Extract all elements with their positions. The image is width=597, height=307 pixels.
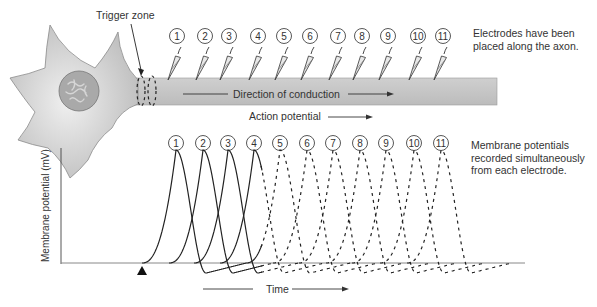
trace-dashed (299, 150, 403, 273)
electrode-3: 3 (220, 29, 237, 81)
trace-8: 8 (326, 136, 430, 274)
trace-number: 7 (330, 138, 336, 149)
electrode-6: 6 (301, 29, 318, 81)
trace-number: 4 (251, 138, 257, 149)
trace-number: 2 (200, 138, 206, 149)
trace-number: 9 (383, 138, 389, 149)
electrodes-note: Electrodes have been placed along the ax… (473, 27, 579, 52)
trace-solid (169, 150, 262, 273)
electrode-number: 8 (359, 31, 365, 42)
electrode-number: 11 (438, 31, 449, 42)
electrode-pipette (196, 56, 209, 80)
electrode-pipette (409, 56, 422, 80)
electrode-pipette (249, 56, 262, 80)
trace-5: 5 (246, 136, 350, 274)
electrode-pipette (379, 56, 392, 80)
electrode-number: 2 (202, 31, 208, 42)
electrode-pipette (329, 56, 342, 80)
trace-number: 11 (436, 138, 447, 149)
electrodes-note-line-1: Electrodes have been (473, 27, 579, 40)
trace-dashed (261, 166, 324, 273)
electrode-5: 5 (275, 29, 292, 81)
recordings-note: Membrane potentials recorded simultaneou… (471, 139, 585, 177)
electrode-pipette (434, 56, 447, 80)
action-potential-arrowhead (366, 115, 373, 120)
trigger-zone-arrow (131, 24, 144, 76)
recordings-note-line-1: Membrane potentials (471, 139, 585, 152)
electrodes: 1234567891011 (168, 29, 451, 81)
trace-6: 6 (273, 136, 377, 274)
electrode-8: 8 (353, 29, 370, 81)
trace-2: 2 (169, 136, 273, 274)
electrode-number: 7 (335, 31, 341, 42)
electrode-number: 5 (281, 31, 287, 42)
x-axis-label: Time (266, 283, 289, 295)
trace-dashed (380, 150, 484, 273)
time-arrowhead (342, 287, 349, 292)
trace-number: 1 (173, 138, 179, 149)
electrode-number: 6 (307, 31, 313, 42)
trigger-zone-label: Trigger zone (96, 9, 155, 21)
electrode-4: 4 (249, 29, 266, 81)
electrode-7: 7 (329, 29, 346, 81)
direction-of-conduction-label: Direction of conduction (233, 88, 340, 100)
trace-10: 10 (380, 136, 484, 274)
electrode-number: 1 (174, 31, 180, 42)
action-potential-traces: 1234567891011 (142, 136, 511, 274)
trace-9: 9 (352, 136, 456, 274)
electrode-number: 3 (226, 31, 232, 42)
trace-number: 10 (408, 138, 420, 149)
trace-dashed (326, 150, 430, 273)
electrodes-note-line-2: placed along the axon. (473, 40, 579, 53)
electrode-pipette (220, 56, 233, 80)
y-axis-label: Membrane potential (mV) (40, 149, 51, 262)
electrode-pipette (168, 56, 181, 80)
trace-1: 1 (142, 136, 246, 274)
electrode-pipette (275, 56, 288, 80)
electrode-pipette (301, 56, 314, 80)
electrode-11: 11 (434, 29, 451, 81)
action-potential-label: Action potential (249, 110, 321, 122)
electrode-number: 10 (412, 31, 424, 42)
electrode-2: 2 (196, 29, 213, 81)
trace-dashed (352, 150, 456, 273)
stimulus-triangle-icon (137, 266, 147, 275)
electrode-1: 1 (168, 29, 185, 81)
trace-number: 3 (225, 138, 231, 149)
electrode-number: 9 (385, 31, 391, 42)
trace-dashed (273, 150, 377, 273)
trace-number: 5 (277, 138, 283, 149)
recordings-note-line-3: from each electrode. (471, 164, 585, 177)
electrode-number: 4 (255, 31, 261, 42)
electrode-pipette (353, 56, 366, 80)
nucleus (59, 71, 99, 111)
trace-dashed (261, 150, 350, 273)
trace-number: 6 (304, 138, 310, 149)
electrode-10: 10 (409, 29, 426, 81)
recordings-note-line-2: recorded simultaneously (471, 152, 585, 165)
trace-7: 7 (299, 136, 403, 274)
trace-number: 8 (357, 138, 363, 149)
electrode-9: 9 (379, 29, 396, 81)
